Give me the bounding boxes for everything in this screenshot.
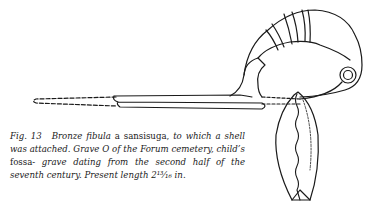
fibula-bow-rib bbox=[302, 10, 305, 41]
pin-body bbox=[114, 95, 266, 109]
fibula-bow-rib bbox=[292, 12, 298, 42]
shell-base bbox=[292, 190, 310, 200]
pin-dashed-outline bbox=[34, 97, 117, 106]
fibula-spring-outer bbox=[340, 67, 356, 83]
fibula-catch bbox=[230, 58, 265, 97]
figure-caption: Fig. 13 Bronze fibula a sansisuga, to wh… bbox=[10, 130, 245, 182]
shell-ridge bbox=[303, 100, 311, 170]
figure-label: Fig. 13 bbox=[10, 131, 42, 141]
pin-dashed-connection bbox=[262, 97, 300, 104]
fibula-bow-inner bbox=[258, 41, 350, 60]
fibula-bow-rib bbox=[308, 10, 310, 42]
caption-text-roman: fossa- bbox=[10, 157, 35, 167]
fibula-bow-rib bbox=[272, 24, 284, 47]
caption-text-roman: a sansisuga, bbox=[115, 131, 170, 141]
fibula-bow-rib bbox=[284, 14, 292, 44]
shell-aperture bbox=[296, 94, 301, 200]
fibula-spring-inner bbox=[344, 71, 353, 80]
shell-outer bbox=[276, 92, 319, 200]
caption-text-italic: grave dating from the second half of the… bbox=[10, 157, 245, 180]
caption-text-italic: Bronze fibula bbox=[52, 131, 111, 141]
